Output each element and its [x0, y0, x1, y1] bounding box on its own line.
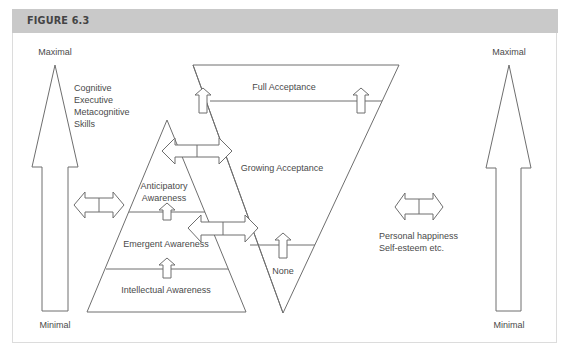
double-arrow-icon	[162, 138, 232, 164]
left-maximal-label: Maximal	[38, 46, 72, 58]
intellectual-awareness-label: Intellectual Awareness	[121, 284, 210, 296]
right-maximal-label: Maximal	[492, 46, 526, 58]
left-minimal-label: Minimal	[39, 319, 70, 331]
none-acceptance-label: None	[272, 265, 294, 277]
double-arrow-icon	[74, 192, 124, 218]
anticipatory-awareness-label: Anticipatory Awareness	[140, 180, 187, 204]
growing-acceptance-label: Growing Acceptance	[241, 162, 324, 174]
awareness-acceptance-diagram	[0, 0, 568, 355]
left-scale-arrow-icon	[32, 65, 78, 311]
full-acceptance-label: Full Acceptance	[252, 81, 316, 93]
double-arrow-icon	[395, 193, 443, 220]
personal-happiness-label: Personal happiness Self-esteem etc.	[379, 230, 458, 254]
emergent-awareness-label: Emergent Awareness	[123, 238, 208, 250]
right-scale-arrow-icon	[486, 65, 531, 311]
right-minimal-label: Minimal	[493, 319, 524, 331]
cognitive-skills-label: Cognitive Executive Metacognitive Skills	[74, 82, 130, 130]
